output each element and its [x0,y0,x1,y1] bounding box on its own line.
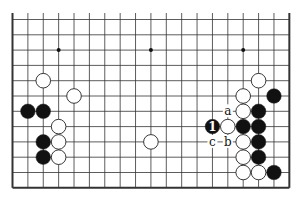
svg-text:c: c [209,135,216,149]
white-stone [51,135,66,150]
black-stone [36,150,51,165]
white-stone [36,73,51,88]
white-stone [236,135,251,150]
black-stone: 1 [205,119,220,134]
black-stone [36,104,51,119]
white-stone [251,165,266,180]
black-stone [267,89,282,104]
black-stone [251,104,266,119]
white-stone [236,165,251,180]
white-stone [236,104,251,119]
go-board: abc 1 [0,0,299,199]
black-stone [251,119,266,134]
black-stone [267,165,282,180]
white-stone [67,89,82,104]
star-point-icon [149,48,153,52]
white-stone [236,89,251,104]
star-point-icon [57,48,61,52]
letter-mark-b: b [223,135,233,149]
black-stone [236,119,251,134]
white-stone [236,150,251,165]
star-point-icon [241,48,245,52]
black-stone [21,104,36,119]
black-stone [36,135,51,150]
white-stone [51,150,66,165]
move-number-label: 1 [208,120,216,134]
white-stone [144,135,159,150]
black-stone [251,150,266,165]
white-stone [51,119,66,134]
white-stone [251,73,266,88]
svg-text:a: a [224,104,231,118]
letter-mark-c: c [207,135,217,149]
letter-mark-a: a [223,104,233,118]
svg-text:b: b [224,135,232,149]
black-stone [251,135,266,150]
white-stone [221,119,236,134]
